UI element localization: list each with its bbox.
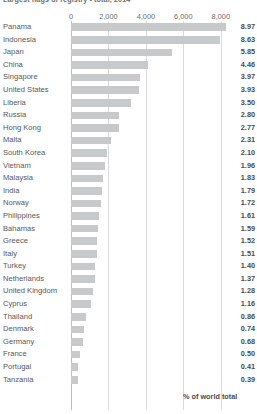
bar[interactable] (71, 162, 105, 170)
bar-value-label: 0.50 (241, 349, 255, 359)
bar-row[interactable]: Liberia3.50 (0, 97, 257, 110)
category-label: Tanzania (3, 375, 33, 385)
bar-value-label: 1.59 (241, 224, 255, 234)
bar-row[interactable]: Japan5.85 (0, 46, 257, 59)
bar-value-label: 1.79 (241, 186, 255, 196)
bar-row[interactable]: Hong Kong2.77 (0, 122, 257, 135)
bar-row[interactable]: India1.79 (0, 185, 257, 198)
bar[interactable] (71, 175, 103, 183)
bar[interactable] (71, 112, 119, 120)
bar-row[interactable]: Norway1.72 (0, 197, 257, 210)
bar[interactable] (71, 61, 148, 69)
category-label: India (3, 186, 19, 196)
bar[interactable] (71, 300, 91, 308)
bar-value-label: 1.83 (241, 173, 255, 183)
bar-value-label: 1.72 (241, 198, 255, 208)
bar-row[interactable]: Netherlands1.37 (0, 273, 257, 286)
bar-value-label: 2.10 (241, 148, 255, 158)
category-label: Bahamas (3, 224, 35, 234)
bar-row[interactable]: Philippines1.61 (0, 210, 257, 223)
category-label: Philippines (3, 211, 40, 221)
chart-title: Largest flags of registry - total, 2014 (3, 0, 130, 4)
bar[interactable] (71, 36, 220, 44)
bar[interactable] (71, 225, 98, 233)
bar-row[interactable]: United States3.93 (0, 84, 257, 97)
bar-row[interactable]: Indonesia8.63 (0, 34, 257, 47)
bar-value-label: 8.63 (241, 35, 255, 45)
bar[interactable] (71, 187, 102, 195)
x-tick-label: 2,000 (99, 12, 118, 21)
category-label: Greece (3, 236, 28, 246)
bar-value-label: 1.52 (241, 236, 255, 246)
category-label: United States (3, 85, 49, 95)
bar[interactable] (71, 250, 97, 258)
bar[interactable] (71, 275, 95, 283)
bar-row[interactable]: Tanzania0.39 (0, 374, 257, 387)
bar-row[interactable]: Russia2.80 (0, 109, 257, 122)
category-label: Cyprus (3, 299, 27, 309)
bar-row[interactable]: Italy1.51 (0, 248, 257, 261)
bar-value-label: 1.16 (241, 299, 255, 309)
bar[interactable] (71, 363, 78, 371)
bar[interactable] (71, 74, 140, 82)
bar-row[interactable]: Bahamas1.59 (0, 223, 257, 236)
category-label: Italy (3, 249, 17, 259)
bar-rows: Panama8.97Indonesia8.63Japan5.85China4.4… (0, 21, 257, 386)
bar-row[interactable]: Denmark0.74 (0, 323, 257, 336)
bar-row[interactable]: Singapore3.97 (0, 71, 257, 84)
bar[interactable] (71, 376, 78, 384)
bar[interactable] (71, 149, 107, 157)
bar[interactable] (71, 200, 101, 208)
category-label: China (3, 60, 23, 70)
bar-row[interactable]: France0.50 (0, 348, 257, 361)
bar[interactable] (71, 237, 97, 245)
bar-value-label: 4.46 (241, 60, 255, 70)
category-label: United Kingdom (3, 286, 57, 296)
bar-value-label: 0.39 (241, 375, 255, 385)
bar-row[interactable]: Portugal0.41 (0, 361, 257, 374)
bar[interactable] (71, 23, 226, 31)
bar-row[interactable]: Germany0.68 (0, 336, 257, 349)
x-tick-label: 6,000 (174, 12, 193, 21)
bar[interactable] (71, 313, 86, 321)
bar[interactable] (71, 49, 172, 57)
category-label: Indonesia (3, 35, 36, 45)
bar-row[interactable]: China4.46 (0, 59, 257, 72)
bar-row[interactable]: Vietnam1.96 (0, 160, 257, 173)
bar-row[interactable]: Turkey1.40 (0, 260, 257, 273)
bar[interactable] (71, 351, 80, 359)
bar-row[interactable]: Thailand0.86 (0, 311, 257, 324)
bar[interactable] (71, 338, 83, 346)
x-tick-label: 0 (69, 12, 73, 21)
bar[interactable] (71, 99, 131, 107)
x-tick-label: 4,000 (137, 12, 156, 21)
bar-row[interactable]: Panama8.97 (0, 21, 257, 34)
category-label: Liberia (3, 98, 26, 108)
bar-value-label: 3.50 (241, 98, 255, 108)
category-label: Malta (3, 135, 22, 145)
bar[interactable] (71, 212, 99, 220)
bar-row[interactable]: South Korea2.10 (0, 147, 257, 160)
category-label: Russia (3, 110, 26, 120)
bar[interactable] (71, 124, 119, 132)
bar[interactable] (71, 263, 95, 271)
bar-row[interactable]: Greece1.52 (0, 235, 257, 248)
category-label: Germany (3, 337, 34, 347)
bar[interactable] (71, 86, 139, 94)
bar-value-label: 2.77 (241, 123, 255, 133)
bar-row[interactable]: Malaysia1.83 (0, 172, 257, 185)
category-label: Netherlands (3, 274, 44, 284)
category-label: Portugal (3, 362, 31, 372)
bar-row[interactable]: Cyprus1.16 (0, 298, 257, 311)
bar-row[interactable]: United Kingdom1.28 (0, 285, 257, 298)
category-label: South Korea (3, 148, 45, 158)
bar[interactable] (71, 326, 84, 334)
bar[interactable] (71, 137, 111, 145)
bar-value-label: 3.93 (241, 85, 255, 95)
category-label: Hong Kong (3, 123, 41, 133)
bar-row[interactable]: Malta2.31 (0, 134, 257, 147)
bar-value-label: 1.40 (241, 261, 255, 271)
bar-value-label: 1.61 (241, 211, 255, 221)
category-label: Japan (3, 47, 24, 57)
bar[interactable] (71, 288, 93, 296)
